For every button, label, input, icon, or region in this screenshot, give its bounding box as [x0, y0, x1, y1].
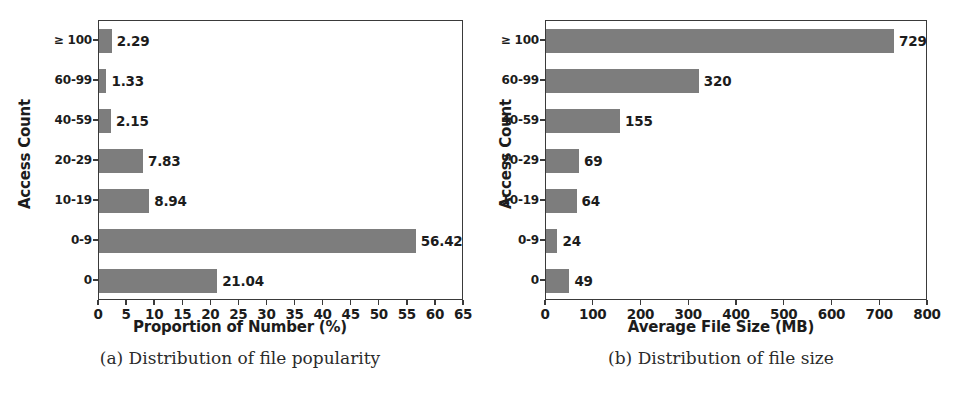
x-tick-label: 700 — [866, 306, 893, 322]
x-tick-label: 30 — [257, 306, 275, 322]
bar-value-label: 2.29 — [117, 33, 150, 49]
x-tick-label: 400 — [722, 306, 749, 322]
bar-value-label: 155 — [625, 113, 653, 129]
y-tick-label: 40-59 — [487, 113, 539, 127]
bar-row: 8.94 — [99, 189, 462, 214]
x-tick-mark — [462, 300, 463, 305]
x-tick-label: 60 — [426, 306, 444, 322]
panel-a-caption: (a) Distribution of file popularity — [0, 348, 480, 368]
bar-60-99 — [546, 69, 699, 94]
x-tick-label: 0 — [93, 306, 102, 322]
bar-row: 64 — [546, 189, 926, 214]
bar-0 — [99, 269, 217, 294]
x-tick-label: 15 — [173, 306, 191, 322]
bar-row: 7.83 — [99, 149, 462, 174]
bar-20-29 — [99, 149, 143, 174]
y-tick-label: 0-9 — [40, 233, 92, 247]
y-tick-mark — [93, 279, 98, 280]
bar-10-19 — [99, 189, 149, 214]
y-tick-mark — [540, 199, 545, 200]
figure-container: 21.0456.428.947.832.151.332.29 Access Co… — [0, 0, 961, 402]
x-tick-label: 500 — [770, 306, 797, 322]
bar-row: 69 — [546, 149, 926, 174]
x-tick-mark — [322, 300, 323, 305]
panel-b-plot-area: 49246469155320729 — [545, 20, 927, 300]
y-tick-mark — [93, 39, 98, 40]
x-tick-label: 35 — [285, 306, 303, 322]
y-tick-label: 0 — [40, 273, 92, 287]
bar--100 — [546, 29, 894, 54]
y-tick-label: 40-59 — [40, 113, 92, 127]
x-tick-label: 800 — [913, 306, 940, 322]
y-tick-label: ≥ 100 — [487, 33, 539, 47]
x-tick-mark — [544, 300, 545, 305]
x-tick-label: 45 — [342, 306, 360, 322]
x-tick-mark — [406, 300, 407, 305]
bar-value-label: 24 — [562, 233, 580, 249]
y-tick-label: 60-99 — [40, 73, 92, 87]
bar-row: 21.04 — [99, 269, 462, 294]
y-tick-mark — [93, 199, 98, 200]
y-tick-mark — [540, 279, 545, 280]
x-tick-label: 50 — [370, 306, 388, 322]
bar-value-label: 64 — [582, 193, 600, 209]
bar-0 — [546, 269, 569, 294]
x-tick-mark — [97, 300, 98, 305]
bar-40-59 — [546, 109, 620, 134]
x-tick-mark — [879, 300, 880, 305]
x-tick-mark — [434, 300, 435, 305]
x-tick-mark — [350, 300, 351, 305]
y-tick-label: 20-29 — [40, 153, 92, 167]
bar-row: 729 — [546, 29, 926, 54]
bar-0-9 — [99, 229, 416, 254]
bar-0-9 — [546, 229, 557, 254]
y-tick-label: 0 — [487, 273, 539, 287]
bar-row: 24 — [546, 229, 926, 254]
x-tick-label: 25 — [229, 306, 247, 322]
y-tick-label: ≥ 100 — [40, 33, 92, 47]
panel-b-file-size: 49246469155320729 Access Count Average F… — [481, 0, 961, 402]
x-tick-label: 300 — [675, 306, 702, 322]
y-tick-label: 60-99 — [487, 73, 539, 87]
x-tick-mark — [783, 300, 784, 305]
y-tick-label: 20-29 — [487, 153, 539, 167]
x-tick-mark — [238, 300, 239, 305]
x-tick-mark — [926, 300, 927, 305]
x-tick-mark — [640, 300, 641, 305]
bar-60-99 — [99, 69, 106, 94]
x-tick-label: 0 — [540, 306, 549, 322]
bar-value-label: 7.83 — [148, 153, 181, 169]
y-tick-label: 0-9 — [487, 233, 539, 247]
y-tick-mark — [540, 239, 545, 240]
x-tick-label: 55 — [398, 306, 416, 322]
y-tick-label: 10-19 — [40, 193, 92, 207]
panel-a-file-popularity: 21.0456.428.947.832.151.332.29 Access Co… — [0, 0, 480, 402]
bar-10-19 — [546, 189, 577, 214]
y-tick-mark — [540, 159, 545, 160]
y-tick-mark — [540, 79, 545, 80]
x-tick-label: 65 — [454, 306, 472, 322]
x-tick-mark — [592, 300, 593, 305]
bar-row: 49 — [546, 269, 926, 294]
x-tick-mark — [153, 300, 154, 305]
x-tick-label: 600 — [818, 306, 845, 322]
panel-a-y-axis-label: Access Count — [16, 94, 34, 214]
bar-row: 155 — [546, 109, 926, 134]
bar-value-label: 729 — [899, 33, 927, 49]
bar-row: 1.33 — [99, 69, 462, 94]
y-tick-mark — [93, 239, 98, 240]
x-tick-label: 20 — [201, 306, 219, 322]
bar-row: 2.29 — [99, 29, 462, 54]
x-tick-mark — [266, 300, 267, 305]
x-tick-label: 100 — [579, 306, 606, 322]
bar-20-29 — [546, 149, 579, 174]
y-tick-mark — [540, 39, 545, 40]
y-tick-mark — [93, 79, 98, 80]
x-tick-label: 200 — [627, 306, 654, 322]
bar-value-label: 21.04 — [222, 273, 264, 289]
x-tick-label: 40 — [314, 306, 332, 322]
x-tick-label: 10 — [145, 306, 163, 322]
x-tick-label: 5 — [122, 306, 131, 322]
y-tick-mark — [93, 119, 98, 120]
x-tick-mark — [182, 300, 183, 305]
